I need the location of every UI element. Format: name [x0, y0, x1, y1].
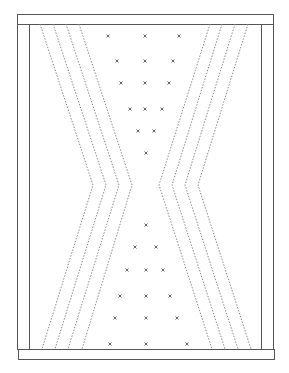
x-marker-icon: [109, 343, 112, 346]
frame-left-column: [18, 25, 30, 350]
x-marker-icon: [114, 317, 117, 320]
marker-points: [107, 35, 189, 346]
right-dotted-line-3: [185, 24, 238, 349]
right-dotted-line-4: [198, 24, 251, 349]
x-marker-icon: [145, 224, 148, 227]
x-marker-icon: [145, 343, 148, 346]
right-chevron-lines: [159, 24, 251, 349]
x-marker-icon: [178, 35, 181, 38]
frame-top-bar: [18, 15, 274, 25]
x-marker-icon: [172, 60, 175, 63]
x-marker-icon: [155, 246, 158, 249]
x-marker-icon: [119, 295, 122, 298]
left-chevron-lines: [40, 24, 132, 349]
x-marker-icon: [134, 246, 137, 249]
x-marker-icon: [107, 35, 110, 38]
left-dotted-line-2: [53, 24, 106, 349]
x-marker-icon: [145, 152, 148, 155]
x-marker-icon: [162, 269, 165, 272]
x-marker-icon: [129, 108, 132, 111]
x-marker-icon: [145, 269, 148, 272]
x-marker-icon: [126, 269, 129, 272]
x-marker-icon: [168, 82, 171, 85]
right-dotted-line-2: [172, 24, 225, 349]
x-marker-icon: [144, 108, 147, 111]
x-marker-icon: [161, 108, 164, 111]
x-marker-icon: [120, 82, 123, 85]
x-marker-icon: [144, 82, 147, 85]
hourglass-diagram: [0, 0, 289, 373]
x-marker-icon: [145, 317, 148, 320]
x-marker-icon: [186, 343, 189, 346]
frame-right-column: [262, 25, 274, 350]
x-marker-icon: [137, 130, 140, 133]
frame: [18, 15, 275, 360]
x-marker-icon: [176, 317, 179, 320]
x-marker-icon: [153, 130, 156, 133]
x-marker-icon: [169, 295, 172, 298]
right-dotted-line-1: [159, 24, 212, 349]
x-marker-icon: [116, 60, 119, 63]
x-marker-icon: [144, 35, 147, 38]
x-marker-icon: [144, 60, 147, 63]
frame-bottom-bar: [19, 350, 275, 360]
x-marker-icon: [145, 295, 148, 298]
left-dotted-line-1: [40, 24, 93, 349]
